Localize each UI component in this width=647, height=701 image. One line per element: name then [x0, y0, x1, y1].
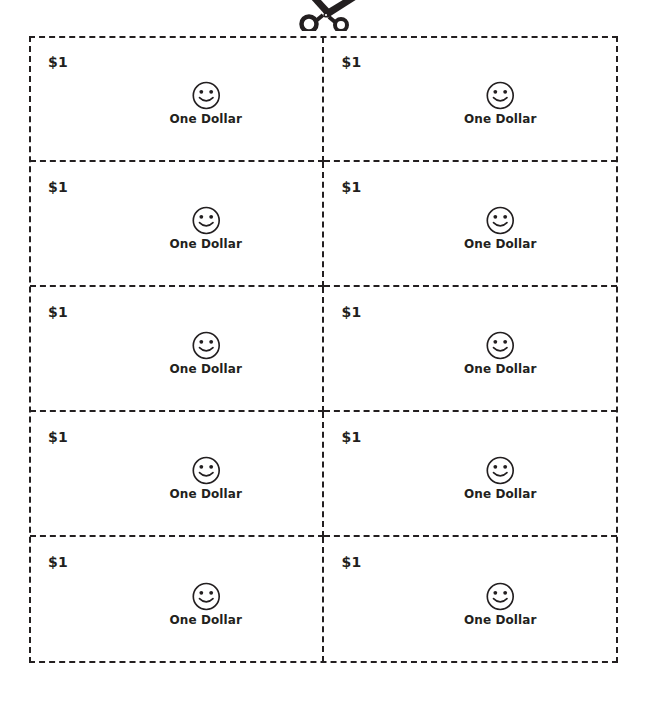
coupon-card[interactable]: $1 One Dollar: [324, 37, 618, 162]
smiley-face-icon: [485, 205, 516, 236]
coupon-denomination: $1: [342, 179, 362, 195]
smiley-face-icon: [190, 80, 221, 111]
coupon-sheet: $1 One Dollar $1: [30, 37, 617, 662]
coupon-denomination: $1: [48, 179, 68, 195]
coupon-card[interactable]: $1 One Dollar: [30, 287, 324, 412]
smiley-face-icon: [485, 80, 516, 111]
smiley-face-icon: [485, 330, 516, 361]
coupon-label: One Dollar: [169, 362, 242, 376]
coupon-denomination: $1: [342, 304, 362, 320]
coupon-card[interactable]: $1 One Dollar: [324, 537, 618, 662]
coupon-denomination: $1: [342, 554, 362, 570]
coupon-card[interactable]: $1 One Dollar: [324, 412, 618, 537]
coupon-label: One Dollar: [464, 112, 537, 126]
coupon-denomination: $1: [48, 429, 68, 445]
coupon-label: One Dollar: [169, 613, 242, 627]
coupon-card[interactable]: $1 One Dollar: [30, 162, 324, 287]
coupon-emblem: One Dollar: [169, 80, 242, 126]
coupon-emblem: One Dollar: [169, 455, 242, 501]
smiley-face-icon: [485, 455, 516, 486]
smiley-face-icon: [190, 330, 221, 361]
coupon-emblem: One Dollar: [464, 581, 537, 627]
smiley-face-icon: [190, 581, 221, 612]
coupon-card[interactable]: $1 One Dollar: [30, 37, 324, 162]
coupon-emblem: One Dollar: [169, 330, 242, 376]
smiley-face-icon: [190, 455, 221, 486]
coupon-label: One Dollar: [464, 362, 537, 376]
coupon-emblem: One Dollar: [169, 205, 242, 251]
coupon-card[interactable]: $1 One Dollar: [30, 412, 324, 537]
coupon-label: One Dollar: [464, 237, 537, 251]
smiley-face-icon: [485, 581, 516, 612]
coupon-emblem: One Dollar: [464, 455, 537, 501]
coupon-denomination: $1: [48, 304, 68, 320]
coupon-emblem: One Dollar: [169, 581, 242, 627]
coupon-label: One Dollar: [464, 613, 537, 627]
coupon-label: One Dollar: [169, 487, 242, 501]
scissors-icon: [283, 0, 367, 31]
coupon-card[interactable]: $1 One Dollar: [30, 537, 324, 662]
coupon-label: One Dollar: [464, 487, 537, 501]
coupon-emblem: One Dollar: [464, 330, 537, 376]
coupon-denomination: $1: [342, 429, 362, 445]
coupon-label: One Dollar: [169, 237, 242, 251]
coupon-emblem: One Dollar: [464, 205, 537, 251]
coupon-denomination: $1: [342, 54, 362, 70]
coupon-denomination: $1: [48, 54, 68, 70]
coupon-label: One Dollar: [169, 112, 242, 126]
smiley-face-icon: [190, 205, 221, 236]
coupon-card[interactable]: $1 One Dollar: [324, 287, 618, 412]
coupon-denomination: $1: [48, 554, 68, 570]
coupon-card[interactable]: $1 One Dollar: [324, 162, 618, 287]
coupon-emblem: One Dollar: [464, 80, 537, 126]
